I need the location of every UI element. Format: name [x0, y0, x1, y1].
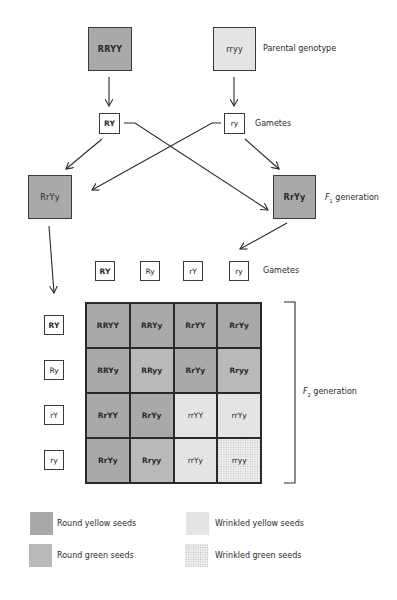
- gamete-text: Ry: [49, 366, 58, 375]
- cell-genotype: rryy: [232, 456, 247, 465]
- cell-genotype: RRYY: [97, 321, 119, 330]
- cell-genotype: RrYY: [98, 411, 118, 420]
- row-gamete: Ry: [44, 360, 64, 380]
- cell-genotype: Rryy: [229, 366, 248, 375]
- parent-gamete-left: RY: [99, 113, 120, 134]
- row-gamete: RY: [44, 315, 64, 335]
- legend-swatch-round-yellow: [30, 512, 53, 535]
- cell-genotype: RRYy: [141, 321, 162, 330]
- f1-genotype-left: RrYy: [40, 193, 59, 202]
- parental-genotype-label: Parental genotype: [263, 44, 336, 53]
- f1-box-right: RrYy: [273, 175, 316, 219]
- row-gamete: ry: [44, 450, 64, 470]
- cell-genotype: RRyy: [141, 366, 162, 375]
- punnett-cell: rrYY: [174, 393, 218, 438]
- gamete-text: rY: [189, 267, 197, 276]
- gamete-text: RY: [104, 119, 115, 128]
- punnett-cell: Rryy: [217, 348, 261, 393]
- f1-generation-label: F1 generation: [325, 193, 379, 204]
- gamete-text: ry: [231, 119, 239, 128]
- column-gamete: RY: [95, 261, 115, 281]
- cell-genotype: rrYy: [232, 411, 247, 420]
- punnett-cell: RRYY: [86, 303, 130, 348]
- legend-label-round-green: Round green seeds: [57, 551, 134, 560]
- legend-swatch-round-green: [29, 544, 52, 567]
- cell-genotype: RrYy: [142, 411, 162, 420]
- row-gamete: rY: [44, 405, 64, 425]
- punnett-cell: RrYY: [174, 303, 218, 348]
- f1-box-left: RrYy: [28, 175, 72, 219]
- cell-genotype: rrYY: [188, 411, 203, 420]
- legend-label-wrinkled-green: Wrinkled green seeds: [215, 551, 301, 560]
- punnett-square: RRYY RRYy RrYY RrYy RRYy RRyy RrYy Rryy …: [85, 302, 262, 484]
- cell-genotype: rrYy: [188, 456, 203, 465]
- f2-generation-label: F2 generation: [303, 387, 357, 398]
- cell-genotype: RrYy: [98, 456, 118, 465]
- f1-label-suffix: generation: [333, 193, 379, 202]
- punnett-cell: RrYy: [86, 438, 130, 483]
- cell-genotype: RrYY: [185, 321, 205, 330]
- punnett-cell: RrYY: [86, 393, 130, 438]
- column-gamete: ry: [229, 261, 249, 281]
- parent-box-right: rryy: [213, 27, 256, 71]
- parent-gamete-right: ry: [224, 113, 245, 134]
- punnett-cell: Rryy: [130, 438, 174, 483]
- cross-arrows: [0, 0, 397, 600]
- legend-swatch-wrinkled-yellow: [186, 512, 209, 535]
- gametes-label-f1: Gametes: [263, 266, 299, 275]
- legend-label-round-yellow: Round yellow seeds: [57, 519, 136, 528]
- punnett-cell: RRYy: [86, 348, 130, 393]
- punnett-cell: RrYy: [130, 393, 174, 438]
- column-gamete: Ry: [140, 261, 160, 281]
- parent-box-left: RRYY: [88, 27, 132, 71]
- punnett-cell: rryy: [217, 438, 261, 483]
- punnett-cell: RRyy: [130, 348, 174, 393]
- cell-genotype: RrYy: [185, 366, 205, 375]
- punnett-cell: rrYy: [217, 393, 261, 438]
- legend-label-wrinkled-yellow: Wrinkled yellow seeds: [215, 519, 304, 528]
- punnett-cell: RRYy: [130, 303, 174, 348]
- gamete-text: Ry: [145, 267, 154, 276]
- gamete-text: RY: [100, 267, 111, 276]
- cell-genotype: RrYy: [229, 321, 249, 330]
- gamete-text: RY: [49, 321, 60, 330]
- f1-genotype-right: RrYy: [284, 193, 306, 202]
- gamete-text: ry: [50, 456, 58, 465]
- column-gamete: rY: [183, 261, 203, 281]
- punnett-cell: rrYy: [174, 438, 218, 483]
- cell-genotype: Rryy: [142, 456, 161, 465]
- gamete-text: ry: [235, 267, 243, 276]
- punnett-cell: RrYy: [217, 303, 261, 348]
- gamete-text: rY: [50, 411, 58, 420]
- f2-label-suffix: generation: [311, 387, 357, 396]
- cell-genotype: RRYy: [97, 366, 118, 375]
- punnett-cell: RrYy: [174, 348, 218, 393]
- parent-genotype-right: rryy: [226, 45, 243, 54]
- parent-genotype-left: RRYY: [98, 45, 122, 54]
- legend-swatch-wrinkled-green: [185, 544, 208, 567]
- gametes-label-top: Gametes: [255, 119, 291, 128]
